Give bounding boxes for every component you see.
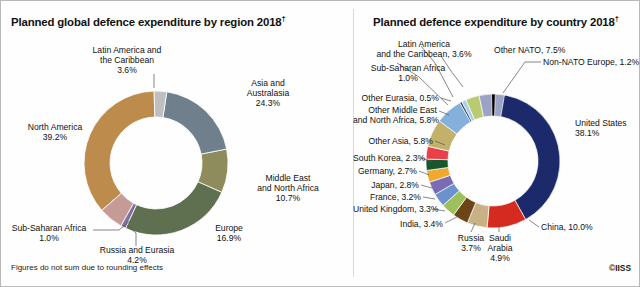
label-other-mena-line2: and North Africa, 5.8% [353, 115, 437, 125]
label-mena-line1: Middle East [233, 173, 343, 183]
label-europe: Europe 16.9% [197, 223, 261, 243]
segment-north-america[interactable] [84, 91, 155, 210]
label-united-states: United States 38.1% [575, 118, 627, 138]
figure-container: Planned global defence expenditure by re… [0, 0, 640, 287]
label-asia-line2: Australasia [225, 88, 311, 98]
label-europe-name: Europe [197, 223, 261, 233]
label-latin-america-line1: Latin America and [61, 45, 193, 55]
label-latin-america-value: 3.6% [61, 65, 193, 75]
label-other-eurasia: Other Eurasia, 0.5% [353, 93, 439, 103]
label-ssa-name: Sub-Saharan Africa [1, 223, 97, 233]
label-ssa-country-line2: 1.0% [353, 73, 463, 83]
label-russia-name: Russia and Eurasia [79, 245, 195, 255]
segment-united-states[interactable] [495, 94, 560, 219]
label-ssa-value: 1.0% [1, 233, 97, 243]
label-sub-saharan-africa-country: Sub-Saharan Africa 1.0% [353, 63, 463, 83]
credit-iiss: ©IISS [609, 263, 631, 273]
label-asia-value: 24.3% [225, 98, 311, 108]
label-latin-america-country-line1: Latin America [359, 39, 489, 49]
label-united-states-name: United States [575, 118, 627, 128]
segment-asia-australasia[interactable] [163, 92, 227, 154]
leader-india [445, 217, 457, 223]
label-europe-value: 16.9% [197, 233, 261, 243]
donut-segments-region [84, 91, 228, 235]
label-sub-saharan-africa: Sub-Saharan Africa 1.0% [1, 223, 97, 243]
label-saudi-arabia: Saudi Arabia 4.9% [479, 233, 521, 264]
label-south-korea: South Korea, 2.3% [353, 153, 419, 163]
label-non-nato-europe: Non-NATO Europe, 1.2% [543, 57, 639, 67]
label-north-america-name: North America [7, 122, 103, 132]
label-saudi-value: 4.9% [479, 253, 521, 263]
label-latin-america-country: Latin America and the Caribbean, 3.6% [359, 39, 489, 59]
footnote-text: Figures do not sum due to rounding effec… [11, 263, 163, 272]
label-india: India, 3.4% [353, 219, 443, 229]
label-north-america: North America 39.2% [7, 122, 103, 142]
label-united-kingdom: United Kingdom, 3.3% [353, 204, 431, 214]
label-latin-america-country-line2: and the Caribbean, 3.6% [359, 49, 489, 59]
label-saudi-line2: Arabia [479, 243, 521, 253]
label-germany: Germany, 2.7% [353, 166, 417, 176]
chart-panel-country: Planned defence expenditure by country 2… [353, 1, 640, 287]
label-other-middle-east: Other Middle East and North Africa, 5.8% [353, 105, 437, 125]
label-mena-value: 10.7% [233, 193, 343, 203]
chart-panel-region: Planned global defence expenditure by re… [1, 1, 353, 287]
label-saudi-line1: Saudi [479, 233, 521, 243]
leader-non-nato-europe [503, 62, 541, 93]
label-middle-east-north-africa: Middle East and North Africa 10.7% [233, 173, 343, 204]
label-latin-america-caribbean: Latin America and the Caribbean 3.6% [61, 45, 193, 76]
segment-non-nato-europe[interactable] [492, 94, 496, 116]
label-north-america-value: 39.2% [7, 132, 103, 142]
label-latin-america-line2: the Caribbean [61, 55, 193, 65]
label-ssa-country-line1: Sub-Saharan Africa [353, 63, 463, 73]
leader-france [423, 197, 435, 199]
label-asia-line1: Asia and [225, 78, 311, 88]
label-japan: Japan, 2.8% [353, 180, 419, 190]
label-mena-line2: and North Africa [233, 183, 343, 193]
label-other-mena-line1: Other Middle East [353, 105, 437, 115]
label-china: China, 10.0% [541, 222, 593, 232]
label-other-nato: Other NATO, 7.5% [494, 45, 565, 55]
leader-china [529, 220, 539, 227]
label-united-states-value: 38.1% [575, 128, 627, 138]
label-other-asia: Other Asia, 5.8% [353, 136, 433, 146]
label-asia-australasia: Asia and Australasia 24.3% [225, 78, 311, 109]
label-france: France, 3.2% [353, 192, 421, 202]
